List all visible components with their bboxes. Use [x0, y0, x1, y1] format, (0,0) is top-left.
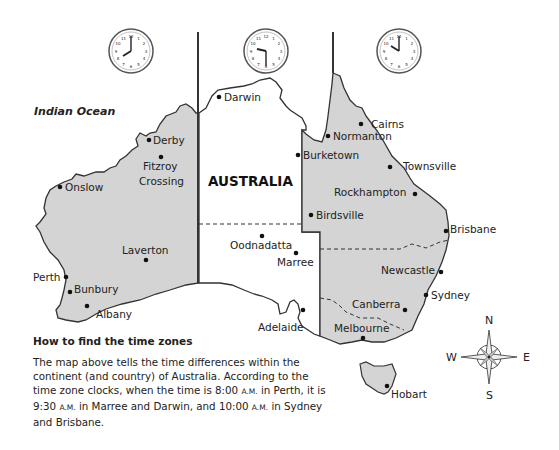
country-label: AUSTRALIA: [208, 173, 293, 189]
svg-text:7: 7: [390, 62, 393, 67]
caption: How to find the time zones The map above…: [33, 335, 333, 429]
city-perth: Perth: [33, 271, 68, 283]
svg-text:Derby: Derby: [153, 134, 185, 146]
svg-text:Bunbury: Bunbury: [74, 283, 118, 295]
city-brisbane: Brisbane: [444, 223, 496, 235]
svg-text:Laverton: Laverton: [122, 244, 168, 256]
svg-text:Sydney: Sydney: [431, 289, 470, 301]
svg-text:11: 11: [256, 36, 262, 41]
city-bunbury: Bunbury: [68, 283, 119, 295]
svg-text:Hobart: Hobart: [391, 388, 427, 400]
svg-text:Oodnadatta: Oodnadatta: [230, 239, 292, 251]
svg-text:2: 2: [278, 41, 281, 46]
svg-text:Marree: Marree: [277, 256, 314, 268]
city-newcastle: Newcastle: [381, 264, 443, 276]
svg-text:2: 2: [143, 41, 146, 46]
svg-text:7: 7: [257, 62, 260, 67]
svg-text:12: 12: [263, 34, 269, 39]
svg-text:6: 6: [130, 64, 133, 69]
city-fitzroy-crossing: FitzroyCrossing: [139, 155, 184, 187]
svg-text:Townsville: Townsville: [402, 160, 456, 172]
svg-text:Rockhampton: Rockhampton: [334, 186, 406, 198]
city-rockhampton: Rockhampton: [334, 186, 417, 198]
svg-text:Newcastle: Newcastle: [381, 264, 435, 276]
svg-text:6: 6: [265, 64, 268, 69]
svg-text:12: 12: [396, 34, 402, 39]
svg-text:11: 11: [389, 36, 395, 41]
compass-east: E: [523, 351, 530, 364]
svg-text:Crossing: Crossing: [139, 175, 184, 187]
svg-text:5: 5: [137, 62, 140, 67]
compass-west: W: [446, 351, 457, 364]
svg-text:10: 10: [383, 41, 389, 46]
svg-text:8: 8: [385, 56, 388, 61]
svg-text:6: 6: [398, 64, 401, 69]
svg-text:4: 4: [278, 56, 281, 61]
svg-text:3: 3: [145, 49, 148, 54]
svg-text:Perth: Perth: [33, 271, 61, 283]
compass-rose-icon: [461, 330, 517, 384]
svg-text:Melbourne: Melbourne: [334, 322, 389, 334]
svg-text:Normanton: Normanton: [333, 130, 392, 142]
svg-text:8: 8: [252, 56, 255, 61]
city-onslow: Onslow: [58, 181, 104, 193]
svg-text:Fitzroy: Fitzroy: [143, 160, 178, 172]
svg-text:4: 4: [143, 56, 146, 61]
svg-text:11: 11: [121, 36, 127, 41]
svg-text:8: 8: [117, 56, 120, 61]
city-birdsville: Birdsville: [309, 209, 364, 221]
svg-text:Onslow: Onslow: [65, 181, 104, 193]
svg-text:Cairns: Cairns: [371, 118, 404, 130]
svg-text:Brisbane: Brisbane: [450, 223, 496, 235]
svg-text:Albany: Albany: [96, 308, 132, 320]
caption-title: How to find the time zones: [33, 335, 333, 347]
svg-text:3: 3: [413, 49, 416, 54]
city-derby: Derby: [147, 134, 185, 146]
svg-text:1: 1: [405, 36, 408, 41]
caption-text: The map above tells the time differences…: [33, 355, 333, 429]
svg-text:3: 3: [280, 49, 283, 54]
city-sydney: Sydney: [424, 289, 470, 301]
svg-text:9: 9: [383, 49, 386, 54]
svg-text:Canberra: Canberra: [352, 298, 400, 310]
svg-text:10: 10: [115, 41, 121, 46]
svg-text:5: 5: [405, 62, 408, 67]
svg-text:4: 4: [411, 56, 414, 61]
svg-text:Burketown: Burketown: [303, 149, 359, 161]
svg-text:9: 9: [250, 49, 253, 54]
svg-text:Adelaide: Adelaide: [258, 321, 304, 333]
svg-text:9: 9: [115, 49, 118, 54]
svg-text:1: 1: [137, 36, 140, 41]
svg-text:7: 7: [122, 62, 125, 67]
city-burketown: Burketown: [296, 149, 359, 161]
svg-text:10: 10: [250, 41, 256, 46]
compass-north: N: [485, 314, 493, 327]
svg-text:1: 1: [272, 36, 275, 41]
city-normanton: Normanton: [326, 130, 392, 142]
city-darwin: Darwin: [217, 91, 261, 103]
svg-text:Darwin: Darwin: [224, 91, 261, 103]
ocean-label: Indian Ocean: [34, 105, 115, 118]
svg-text:12: 12: [128, 34, 134, 39]
svg-text:Birdsville: Birdsville: [316, 209, 364, 221]
svg-text:2: 2: [411, 41, 414, 46]
svg-text:5: 5: [272, 62, 275, 67]
compass-south: S: [486, 389, 493, 402]
